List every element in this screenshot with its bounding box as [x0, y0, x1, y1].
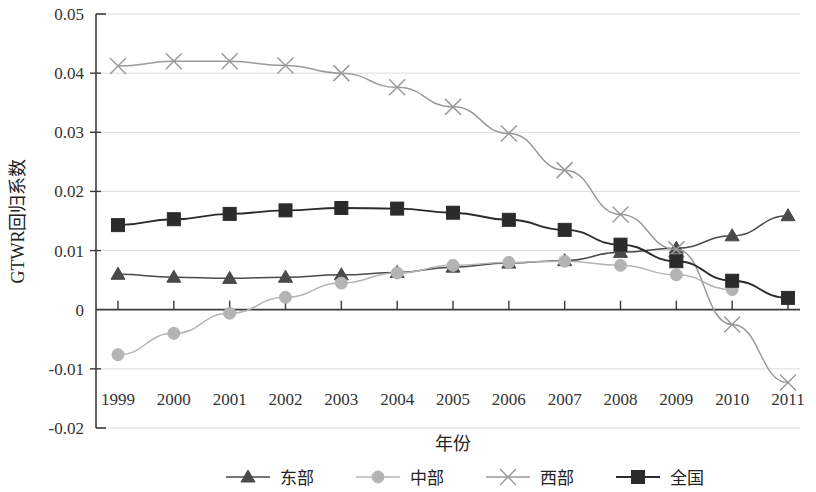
marker-circle: [670, 269, 682, 281]
y-axis-title: GTWR回归系数: [8, 159, 28, 284]
y-tick-label: 0: [76, 301, 85, 320]
legend-item-全国[interactable]: 全国: [616, 469, 704, 488]
marker-cross: [724, 317, 740, 333]
series-西部: [110, 53, 796, 390]
series-东部: [111, 209, 795, 284]
x-tick-label: 2009: [659, 390, 693, 409]
marker-square: [558, 223, 571, 236]
legend-item-中部[interactable]: 中部: [356, 469, 444, 488]
marker-triangle: [223, 271, 237, 283]
x-tick-label: 2008: [604, 390, 638, 409]
marker-triangle: [111, 267, 125, 279]
marker-circle: [391, 267, 403, 279]
marker-circle: [447, 259, 459, 271]
legend-label-西部: 西部: [540, 469, 574, 488]
x-tick-label: 2010: [715, 390, 749, 409]
x-tick-label: 2004: [380, 390, 415, 409]
marker-circle: [280, 291, 292, 303]
marker-circle: [559, 255, 571, 267]
x-tick-label: 2011: [771, 390, 804, 409]
series-全国: [112, 201, 795, 304]
marker-cross: [780, 374, 796, 390]
legend-item-东部[interactable]: 东部: [226, 469, 314, 488]
legend-item-西部[interactable]: 西部: [486, 469, 574, 488]
y-tick-label: 0.02: [54, 182, 84, 201]
marker-square: [726, 274, 739, 287]
y-tick-label: 0.03: [54, 123, 84, 142]
axes-group: 0.050.040.030.020.010-0.01-0.02199920002…: [49, 5, 805, 438]
legend: 东部中部西部全国: [226, 469, 704, 488]
y-tick-label: -0.01: [49, 360, 84, 379]
x-tick-label: 2002: [269, 390, 303, 409]
legend-label-东部: 东部: [280, 469, 314, 488]
legend-label-全国: 全国: [670, 469, 704, 488]
x-tick-label: 2006: [492, 390, 526, 409]
x-tick-label: 2001: [213, 390, 247, 409]
marker-square: [223, 207, 236, 220]
marker-square: [112, 219, 125, 232]
marker-square: [391, 202, 404, 215]
y-tick-label: -0.02: [49, 419, 84, 438]
marker-circle: [112, 349, 124, 361]
chart-canvas: 0.050.040.030.020.010-0.01-0.02199920002…: [0, 0, 816, 492]
marker-triangle: [167, 270, 181, 282]
marker-square: [447, 206, 460, 219]
series-line-中部: [118, 261, 732, 354]
marker-triangle: [279, 270, 293, 282]
x-tick-label: 1999: [101, 390, 135, 409]
marker-square: [632, 471, 645, 484]
marker-circle: [372, 471, 384, 483]
legend-label-中部: 中部: [410, 469, 444, 488]
marker-square: [502, 213, 515, 226]
gtwr-coefficient-line-chart: 0.050.040.030.020.010-0.01-0.02199920002…: [0, 0, 816, 492]
marker-triangle: [241, 470, 255, 482]
marker-triangle: [669, 241, 683, 253]
marker-triangle: [781, 209, 795, 221]
marker-square: [782, 291, 795, 304]
marker-circle: [224, 307, 236, 319]
marker-circle: [335, 277, 347, 289]
series-line-西部: [118, 61, 788, 382]
marker-square: [279, 204, 292, 217]
x-tick-label: 2007: [548, 390, 583, 409]
marker-square: [335, 201, 348, 214]
x-axis-title: 年份: [435, 434, 471, 454]
x-tick-label: 2005: [436, 390, 470, 409]
marker-circle: [503, 256, 515, 268]
y-tick-label: 0.01: [54, 242, 84, 261]
series-中部: [112, 255, 738, 360]
marker-circle: [615, 259, 627, 271]
x-tick-label: 2000: [157, 390, 191, 409]
marker-circle: [168, 327, 180, 339]
series-line-全国: [118, 208, 788, 298]
gridlines-group: [96, 14, 800, 428]
x-tick-label: 2003: [324, 390, 358, 409]
y-tick-label: 0.05: [54, 5, 84, 24]
marker-square: [670, 255, 683, 268]
y-tick-label: 0.04: [54, 64, 84, 83]
marker-square: [614, 238, 627, 251]
marker-square: [167, 213, 180, 226]
